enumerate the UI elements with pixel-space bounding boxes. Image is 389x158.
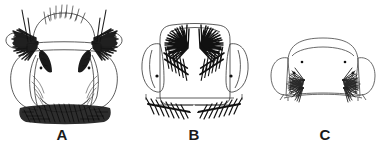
panel-a-apical-bristles [44,5,85,24]
panel-label-c: C [310,126,340,143]
figure-panel-c [258,0,389,128]
panel-c-outline [271,38,375,101]
panel-label-a: A [47,126,77,143]
panel-labels: A B C [0,126,389,158]
panel-a-fine-hairs [32,76,98,106]
panel-c-drawing [258,0,389,128]
figure-panel-b [130,0,258,128]
panel-b-drawing [130,0,258,128]
panel-c-setal-sockets-lower [293,72,355,75]
panel-a-drawing [0,0,130,128]
panel-b-setal-sockets [155,74,232,77]
figure-panel-a [0,0,130,128]
panel-a-lateral-tuft-right [92,29,118,60]
panel-label-b: B [179,126,209,143]
panel-a-outline [6,13,122,112]
figure-plate: A B C [0,0,389,158]
panel-b-outline [142,24,248,106]
panel-a-basal-fringe [19,104,111,124]
panel-c-setal-sockets-upper [301,61,347,64]
